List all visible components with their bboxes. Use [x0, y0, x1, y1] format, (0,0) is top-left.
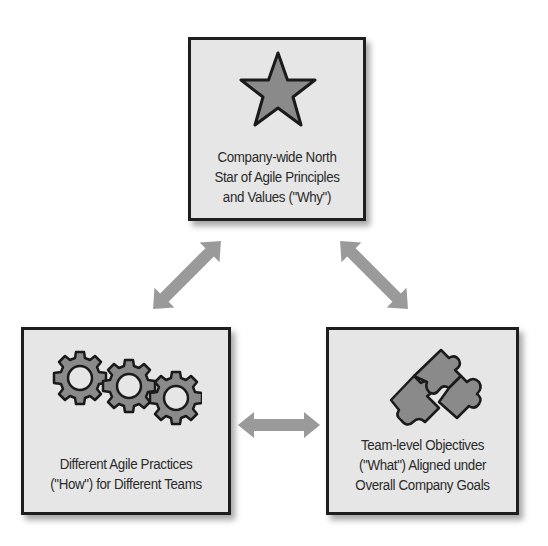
label-line: Team-level Objectives — [342, 435, 503, 455]
node-north-star-label: Company-wide North Star of Agile Princip… — [203, 147, 351, 207]
label-line: ("What") Aligned under — [342, 455, 503, 475]
node-objectives-label: Team-level Objectives ("What") Aligned u… — [342, 435, 503, 495]
gears-icon — [52, 342, 202, 432]
puzzle-icon — [369, 340, 489, 435]
label-line: Star of Agile Principles — [203, 167, 351, 187]
double-arrow-top-right — [332, 235, 417, 315]
label-line: and Values ("Why") — [203, 187, 351, 207]
label-line: Overall Company Goals — [342, 475, 503, 495]
double-arrow-bottom — [236, 408, 322, 442]
star-icon — [237, 50, 319, 130]
double-arrow-top-left — [145, 235, 230, 315]
node-objectives: Team-level Objectives ("What") Aligned u… — [326, 327, 519, 515]
label-line: Different Agile Practices — [38, 454, 213, 474]
label-line: Company-wide North — [203, 147, 351, 167]
node-practices-label: Different Agile Practices ("How") for Di… — [38, 454, 213, 494]
node-practices: Different Agile Practices ("How") for Di… — [21, 327, 231, 515]
label-line: ("How") for Different Teams — [38, 474, 213, 494]
node-north-star: Company-wide North Star of Agile Princip… — [188, 37, 366, 221]
